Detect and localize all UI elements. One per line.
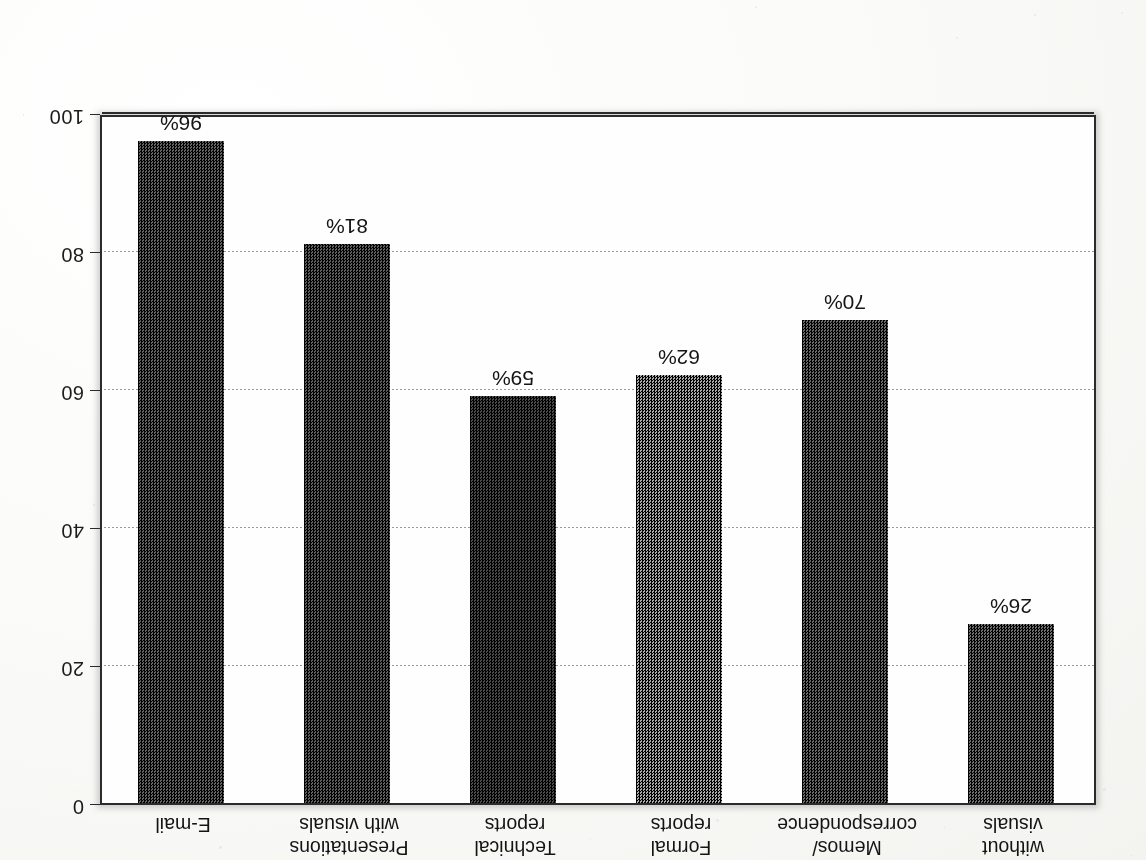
category-label: Technical reports [425, 813, 605, 859]
bar-value-label: 59% [453, 366, 573, 390]
gridline [102, 112, 1094, 114]
axis-tick-label: 60 [61, 381, 84, 404]
bar-value-label: 81% [287, 214, 407, 238]
gridline [102, 389, 1094, 390]
bar [968, 624, 1054, 803]
axis-tick-label: 80 [61, 243, 84, 266]
category-label: Memos/ correspondence [757, 813, 937, 859]
axis-tick [90, 252, 100, 253]
bar [304, 244, 390, 803]
axis-tick [90, 528, 100, 529]
bar-chart-figure: Presentations without visualsMemos/ corr… [0, 0, 1146, 860]
axis-tick-label: 40 [61, 519, 84, 542]
bar [470, 396, 556, 803]
bar-value-label: 62% [619, 345, 739, 369]
bar [802, 320, 888, 803]
category-label: Presentations with visuals [259, 813, 439, 859]
gridline [102, 665, 1094, 666]
bar-value-label: 26% [951, 594, 1071, 618]
axis-tick-label: 0 [72, 795, 84, 818]
plot-area: 26%70%62%59%81%96% [100, 115, 1096, 805]
axis-tick-label: 20 [61, 657, 84, 680]
bar [138, 141, 224, 803]
gridline [102, 251, 1094, 252]
bar-value-label: 96% [121, 111, 241, 135]
gridline [102, 527, 1094, 528]
category-label: Presentations without visuals [923, 813, 1103, 860]
bar [636, 375, 722, 803]
axis-tick [90, 390, 100, 391]
axis-tick-label: 100 [49, 105, 84, 128]
category-label: Formal reports [591, 813, 771, 859]
axis-tick [90, 666, 100, 667]
axis-tick [90, 804, 100, 805]
bar-value-label: 70% [785, 290, 905, 314]
axis-tick [90, 114, 100, 115]
category-label: E-mail [93, 813, 273, 836]
